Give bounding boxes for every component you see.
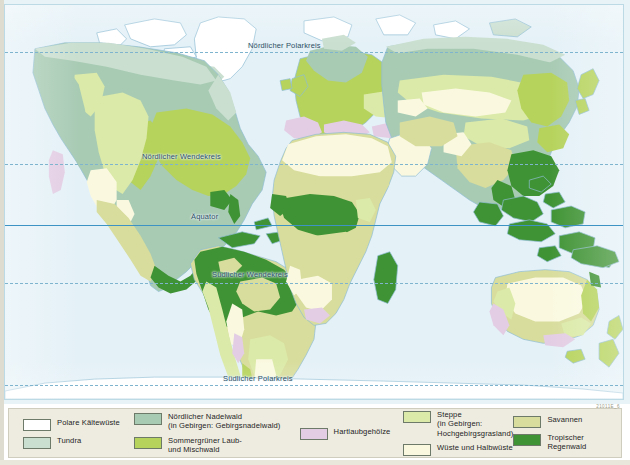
legend-swatch-tundra bbox=[23, 437, 51, 449]
legend-swatch-desert bbox=[403, 444, 431, 456]
latitude-line-arctic-circle bbox=[5, 52, 623, 53]
scan-edge-left bbox=[0, 0, 4, 465]
map-legend: Polare Kältewüste Tundra Nördlicher Nade… bbox=[8, 408, 622, 458]
legend-item-tundra[interactable]: Tundra bbox=[23, 436, 134, 449]
latitude-line-tropic-cancer bbox=[5, 164, 623, 165]
legend-item-desert[interactable]: Wüste und Halbwüste bbox=[403, 443, 513, 456]
map-frame: .cl{stroke:#8fbdd4;stroke-width:0.7;stro… bbox=[4, 4, 624, 400]
latitude-line-tropic-capricorn bbox=[5, 283, 623, 284]
plate-code: 21011E_6 bbox=[596, 404, 620, 409]
legend-column-5: Savannen Tropischer Regenwald bbox=[513, 415, 615, 452]
legend-swatch-polar-desert bbox=[23, 419, 51, 431]
latitude-label-tropic-capricorn: Südlicher Wendekreis bbox=[212, 270, 288, 279]
atlas-page: .cl{stroke:#8fbdd4;stroke-width:0.7;stro… bbox=[0, 0, 630, 465]
region-antarctica bbox=[5, 377, 623, 399]
legend-item-sclerophyll[interactable]: Hartlaubgehölze bbox=[300, 427, 403, 440]
legend-label-desert: Wüste und Halbwüste bbox=[437, 443, 513, 452]
latitude-line-antarctic-circle bbox=[5, 385, 623, 386]
legend-label-deciduous-mixed-forest: Sommergrüner Laub- und Mischwald bbox=[168, 436, 242, 455]
legend-swatch-sclerophyll bbox=[300, 428, 328, 440]
legend-label-steppe: Steppe (in Gebirgen: Hochgebirgsgrasland… bbox=[437, 410, 513, 438]
legend-item-steppe[interactable]: Steppe (in Gebirgen: Hochgebirgsgrasland… bbox=[403, 410, 513, 438]
latitude-label-equator: Äquator bbox=[191, 212, 218, 221]
legend-label-tundra: Tundra bbox=[57, 436, 81, 445]
latitude-line-equator bbox=[5, 225, 623, 226]
vegetation-zones-svg: .cl{stroke:#8fbdd4;stroke-width:0.7;stro… bbox=[5, 5, 623, 399]
legend-item-tropical-rainforest[interactable]: Tropischer Regenwald bbox=[513, 433, 615, 452]
legend-label-tropical-rainforest: Tropischer Regenwald bbox=[547, 433, 586, 452]
legend-label-savanna: Savannen bbox=[547, 415, 582, 424]
legend-label-polar-desert: Polare Kältewüste bbox=[57, 418, 120, 427]
legend-column-2: Nördlicher Nadelwald (in Gebirgen: Gebir… bbox=[134, 412, 300, 455]
region-asia bbox=[382, 37, 599, 210]
landmass-layer: .cl{stroke:#8fbdd4;stroke-width:0.7;stro… bbox=[5, 5, 623, 399]
legend-column-1: Polare Kältewüste Tundra bbox=[23, 418, 134, 449]
region-australia bbox=[489, 246, 623, 367]
latitude-label-tropic-cancer: Nördlicher Wendekreis bbox=[142, 152, 221, 161]
world-map: .cl{stroke:#8fbdd4;stroke-width:0.7;stro… bbox=[0, 0, 630, 404]
latitude-label-arctic-circle: Nördlicher Polarkreis bbox=[248, 41, 321, 50]
legend-swatch-deciduous-mixed-forest bbox=[134, 437, 162, 449]
legend-label-sclerophyll: Hartlaubgehölze bbox=[334, 427, 391, 436]
legend-column-3: Hartlaubgehölze bbox=[300, 427, 403, 440]
legend-column-4: Steppe (in Gebirgen: Hochgebirgsgrasland… bbox=[403, 410, 513, 456]
legend-swatch-savanna bbox=[513, 416, 541, 428]
legend-item-savanna[interactable]: Savannen bbox=[513, 415, 615, 428]
legend-item-polar-desert[interactable]: Polare Kältewüste bbox=[23, 418, 134, 431]
legend-item-boreal-forest[interactable]: Nördlicher Nadelwald (in Gebirgen: Gebir… bbox=[134, 412, 300, 431]
scan-edge-bottom bbox=[0, 460, 630, 465]
legend-label-boreal-forest: Nördlicher Nadelwald (in Gebirgen: Gebir… bbox=[168, 412, 280, 431]
legend-item-deciduous-mixed-forest[interactable]: Sommergrüner Laub- und Mischwald bbox=[134, 436, 300, 455]
legend-swatch-tropical-rainforest bbox=[513, 434, 541, 446]
legend-swatch-boreal-forest bbox=[134, 413, 162, 425]
latitude-label-antarctic-circle: Südlicher Polarkreis bbox=[223, 374, 293, 383]
legend-swatch-steppe bbox=[403, 411, 431, 423]
